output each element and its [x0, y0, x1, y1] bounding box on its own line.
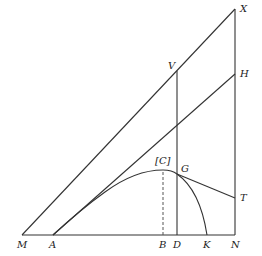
label-H: H	[239, 68, 249, 79]
label-T: T	[240, 192, 248, 203]
label-M: M	[16, 239, 28, 250]
geometric-diagram: X V H [C] G T M A B D K N	[0, 0, 262, 256]
label-C: [C]	[155, 155, 171, 166]
label-X: X	[239, 3, 248, 14]
label-N: N	[230, 239, 241, 250]
label-G: G	[181, 163, 189, 174]
label-D: D	[172, 239, 181, 250]
label-K: K	[202, 239, 211, 250]
label-A: A	[48, 239, 56, 250]
label-V: V	[168, 60, 177, 71]
label-B: B	[158, 239, 166, 250]
line-MX	[22, 9, 235, 235]
curve-GK	[177, 174, 207, 235]
line-GT	[177, 174, 235, 198]
